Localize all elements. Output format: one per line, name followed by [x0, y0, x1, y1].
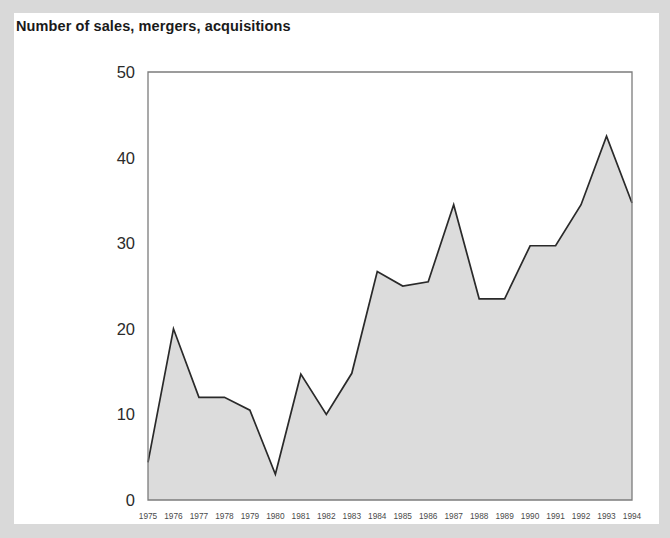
- x-tick-label: 1981: [292, 511, 311, 521]
- x-tick-label: 1989: [495, 511, 514, 521]
- x-tick-label: 1975: [139, 511, 158, 521]
- x-tick-label: 1992: [572, 511, 591, 521]
- x-tick-label: 1983: [343, 511, 362, 521]
- x-tick-label: 1985: [394, 511, 413, 521]
- area-chart-svg: 01020304050 1975197619771978197919801981…: [0, 0, 670, 538]
- series-area-group: [148, 136, 632, 500]
- plot-area: 01020304050 1975197619771978197919801981…: [0, 0, 670, 538]
- y-tick-label: 10: [117, 405, 135, 423]
- x-tick-label: 1984: [368, 511, 387, 521]
- x-tick-label: 1976: [164, 511, 183, 521]
- y-tick-label: 40: [117, 149, 135, 167]
- y-tick-label: 20: [117, 320, 135, 338]
- x-tick-label: 1977: [190, 511, 209, 521]
- x-tick-label: 1982: [317, 511, 336, 521]
- y-tick-label: 0: [126, 491, 135, 509]
- x-axis-tick-labels: 1975197619771978197919801981198219831984…: [139, 511, 642, 521]
- x-tick-label: 1988: [470, 511, 489, 521]
- x-tick-label: 1979: [241, 511, 260, 521]
- x-tick-label: 1980: [266, 511, 285, 521]
- x-tick-label: 1986: [419, 511, 438, 521]
- y-tick-label: 50: [117, 63, 135, 81]
- series-area-fill: [148, 136, 632, 500]
- figure-container: Number of sales, mergers, acquisitions 0…: [0, 0, 670, 538]
- y-axis-tick-labels: 01020304050: [117, 63, 135, 509]
- x-tick-label: 1993: [597, 511, 616, 521]
- x-tick-label: 1978: [215, 511, 234, 521]
- x-tick-label: 1990: [521, 511, 540, 521]
- x-tick-label: 1991: [546, 511, 565, 521]
- y-tick-label: 30: [117, 234, 135, 252]
- x-tick-label: 1994: [623, 511, 642, 521]
- x-tick-label: 1987: [444, 511, 463, 521]
